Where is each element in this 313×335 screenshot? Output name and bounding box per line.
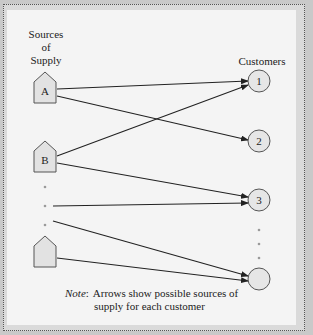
customer-2-label: 2 (256, 135, 262, 147)
customer-3-label: 3 (256, 194, 262, 206)
sources-label-line2: of (41, 41, 51, 53)
source-node-a: A (34, 72, 56, 103)
supply-network-diagram: Sources of Supply Customers A B 1 2 (0, 0, 313, 335)
note-line-2: supply for each customer (94, 300, 205, 312)
note-text-1: Arrows show possible sources of (93, 287, 239, 299)
arrow-a-to-2 (57, 96, 248, 140)
source-node-b: B (34, 141, 56, 172)
customer-node-1: 1 (248, 70, 270, 92)
customer-ellipsis (258, 229, 261, 260)
arrows (53, 81, 248, 281)
note-line-1: Note:Arrows show possible sources of (64, 287, 239, 299)
note-prefix: Note (64, 287, 86, 299)
customer-node-2: 2 (248, 130, 270, 152)
customers-label: Customers (238, 55, 285, 67)
sources-label-line1: Sources (29, 28, 64, 40)
arrow-a-to-1 (57, 81, 248, 89)
customer-node-3: 3 (248, 189, 270, 211)
customer-1-label: 1 (256, 75, 262, 87)
customer-node-last (248, 268, 270, 290)
arrow-last-to-last (57, 258, 248, 281)
arrow-ellipsis-to-last (53, 221, 248, 276)
arrow-b-to-1 (57, 85, 248, 156)
source-node-last (34, 236, 56, 267)
source-ellipsis (44, 186, 47, 227)
source-a-label: A (41, 85, 49, 97)
house-icon (34, 236, 56, 267)
arrow-b-to-3 (57, 163, 248, 197)
arrow-ellipsis-to-3 (53, 203, 248, 206)
sources-label-line3: Supply (30, 54, 62, 66)
source-b-label: B (41, 154, 48, 166)
